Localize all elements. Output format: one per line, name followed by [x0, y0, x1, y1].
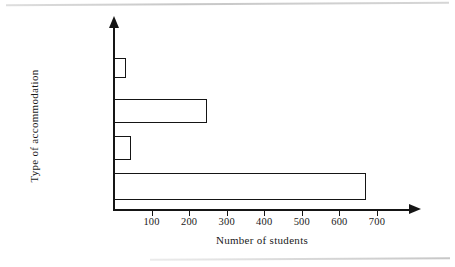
y-axis-arrow-icon — [109, 16, 119, 28]
x-tick-label-400: 400 — [244, 216, 284, 227]
x-tick-label-700: 700 — [357, 216, 397, 227]
x-axis-line — [113, 209, 411, 211]
bar-private-rented — [114, 99, 207, 123]
x-axis-arrow-icon — [409, 204, 421, 214]
bar-other — [114, 58, 126, 78]
bar-chart: 100200300400500600700 Hall of residenceP… — [0, 0, 455, 267]
x-tick-label-600: 600 — [319, 216, 359, 227]
x-tick-label-300: 300 — [207, 216, 247, 227]
x-tick-label-500: 500 — [282, 216, 322, 227]
bar-parental-home — [114, 136, 131, 160]
x-axis-title: Number of students — [113, 234, 411, 246]
y-axis-title: Type of accommodation — [28, 26, 40, 226]
bar-hall-of-residence — [114, 173, 366, 200]
x-tick-label-100: 100 — [132, 216, 172, 227]
x-tick-label-200: 200 — [169, 216, 209, 227]
